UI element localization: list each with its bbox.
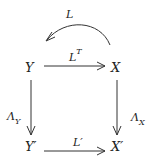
node-Y-prime: Y′ [25, 140, 37, 153]
edge-label-LT: LT [69, 50, 82, 63]
node-X: X [111, 61, 120, 74]
edge-label-L: L [66, 9, 73, 20]
commutative-diagram: Y X Y′ X′ L LT ΛY ΛX L′ [0, 0, 155, 167]
edge-label-Lprime: L′ [73, 137, 83, 148]
node-X-prime: X′ [111, 140, 123, 153]
node-Y: Y [25, 61, 34, 74]
edge-label-LambdaY: ΛY [7, 111, 20, 125]
edge-label-LambdaX: ΛX [131, 112, 145, 126]
arrow-L-curved [47, 25, 110, 45]
